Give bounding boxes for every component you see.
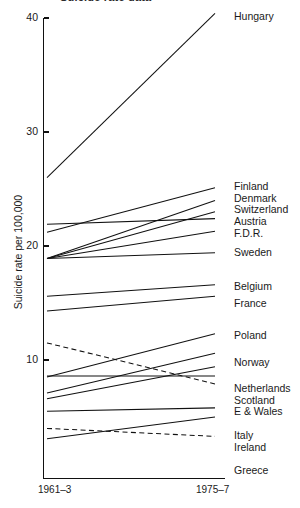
series-label-hungary: Hungary bbox=[234, 11, 274, 22]
y-tick-label: 40 bbox=[8, 11, 38, 23]
series-label-greece: Greece bbox=[234, 465, 268, 476]
slopegraph-figure: Suicide rate data 40302010 1961–3 1975–7… bbox=[0, 0, 300, 508]
y-tick-label: 10 bbox=[8, 353, 38, 365]
series-line-italy bbox=[47, 408, 215, 411]
series-line-hungary bbox=[47, 13, 215, 177]
series-line-poland bbox=[47, 334, 215, 377]
series-label-belgium: Belgium bbox=[234, 281, 272, 292]
series-line-sweden bbox=[47, 253, 215, 259]
series-line-france bbox=[47, 296, 215, 311]
series-label-italy: Italy bbox=[234, 430, 253, 441]
series-line-denmark bbox=[47, 200, 215, 258]
y-tick-label: 30 bbox=[8, 125, 38, 137]
series-label-ireland: Ireland bbox=[234, 442, 266, 453]
series-label-netherlands: Netherlands bbox=[234, 383, 291, 394]
series-label-norway: Norway bbox=[234, 357, 270, 368]
x-tick-label-end: 1975–7 bbox=[196, 484, 229, 495]
series-line-austria bbox=[47, 219, 215, 225]
series-label-austria: Austria bbox=[234, 216, 267, 227]
series-label-finland: Finland bbox=[234, 181, 268, 192]
series-label-e-wales: E & Wales bbox=[234, 406, 283, 417]
series-label-f-d-r: F.D.R. bbox=[234, 228, 263, 239]
series-line-e-wales bbox=[47, 343, 215, 384]
series-label-switzerland: Switzerland bbox=[234, 204, 288, 215]
series-lines bbox=[47, 13, 215, 438]
y-axis-title: Suicide rate per 100,000 bbox=[12, 182, 24, 322]
series-line-netherlands bbox=[47, 367, 215, 399]
series-label-sweden: Sweden bbox=[234, 247, 272, 258]
series-line-norway bbox=[47, 353, 215, 393]
series-line-belgium bbox=[47, 285, 215, 296]
series-label-poland: Poland bbox=[234, 330, 267, 341]
y-tick-marks bbox=[44, 18, 50, 360]
x-tick-label-start: 1961–3 bbox=[38, 484, 71, 495]
series-label-france: France bbox=[234, 298, 267, 309]
series-line-finland bbox=[47, 188, 215, 232]
